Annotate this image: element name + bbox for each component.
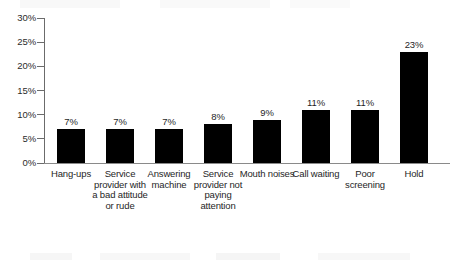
y-axis-tick-label: 30%: [2, 13, 36, 23]
y-axis-tick: [37, 163, 44, 164]
bar-value-label: 11%: [296, 98, 336, 108]
bar: [106, 129, 134, 163]
bar: [204, 124, 232, 163]
y-axis-tick: [37, 42, 44, 43]
y-axis-tick: [37, 18, 44, 19]
y-axis-tick-label: 10%: [2, 110, 36, 120]
scan-artifact-top: [20, 0, 440, 8]
y-axis-tick: [37, 66, 44, 67]
y-axis-tick-label: 0%: [2, 158, 36, 168]
bar-value-label: 7%: [149, 117, 189, 127]
y-axis-tick: [37, 90, 44, 91]
bar-value-label: 7%: [51, 117, 91, 127]
bar-chart: 0%5%10%15%20%25%30% 7%7%7%8%9%11%11%23% …: [0, 0, 458, 262]
y-axis-tick-label: 5%: [2, 134, 36, 144]
y-axis-line: [44, 18, 45, 164]
y-axis-tick-label: 25%: [2, 37, 36, 47]
y-axis-tick-label: 15%: [2, 86, 36, 96]
y-axis-tick-label: 20%: [2, 61, 36, 71]
bar: [351, 110, 379, 163]
x-axis-category-label: Hold: [385, 169, 443, 180]
bar-value-label: 9%: [247, 108, 287, 118]
bar-value-label: 7%: [100, 117, 140, 127]
y-axis-tick: [37, 114, 44, 115]
x-axis-baseline: [44, 163, 450, 164]
bar: [57, 129, 85, 163]
bar-value-label: 8%: [198, 112, 238, 122]
bar-value-label: 11%: [345, 98, 385, 108]
bar: [253, 120, 281, 164]
bar: [155, 129, 183, 163]
bar-value-label: 23%: [394, 40, 434, 50]
bar: [302, 110, 330, 163]
bar: [400, 52, 428, 163]
y-axis-tick: [37, 138, 44, 139]
scan-artifact-bottom: [30, 253, 450, 260]
